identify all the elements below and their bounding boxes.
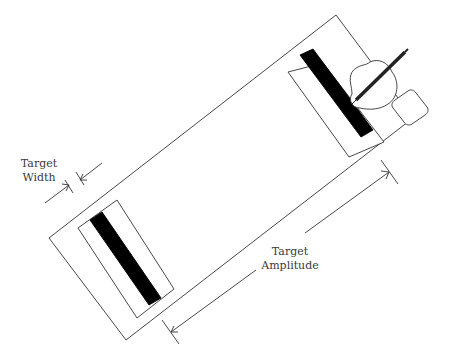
target-amplitude-label-line1: Target xyxy=(255,245,325,259)
target-width-label-line1: Target xyxy=(14,157,64,171)
left-target xyxy=(78,200,174,318)
fitts-diagram xyxy=(0,0,451,360)
target-width-label: Target Width xyxy=(14,157,64,185)
target-width-label-line2: Width xyxy=(14,171,64,185)
target-amplitude-label: Target Amplitude xyxy=(255,245,325,273)
target-amplitude-label-line2: Amplitude xyxy=(255,259,325,273)
outer-board xyxy=(49,15,413,340)
